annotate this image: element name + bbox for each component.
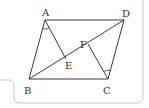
label-e: E xyxy=(65,60,72,71)
angle-mark-a xyxy=(43,28,49,29)
label-d: D xyxy=(122,8,130,19)
label-b: B xyxy=(24,85,31,96)
segment-ae xyxy=(45,20,66,59)
geometry-figure: A D B C F E xyxy=(0,0,149,108)
label-a: A xyxy=(41,7,50,18)
label-f: F xyxy=(80,39,87,50)
label-c: C xyxy=(103,85,111,96)
segment-cf xyxy=(88,44,108,79)
angle-mark-c xyxy=(104,70,111,72)
